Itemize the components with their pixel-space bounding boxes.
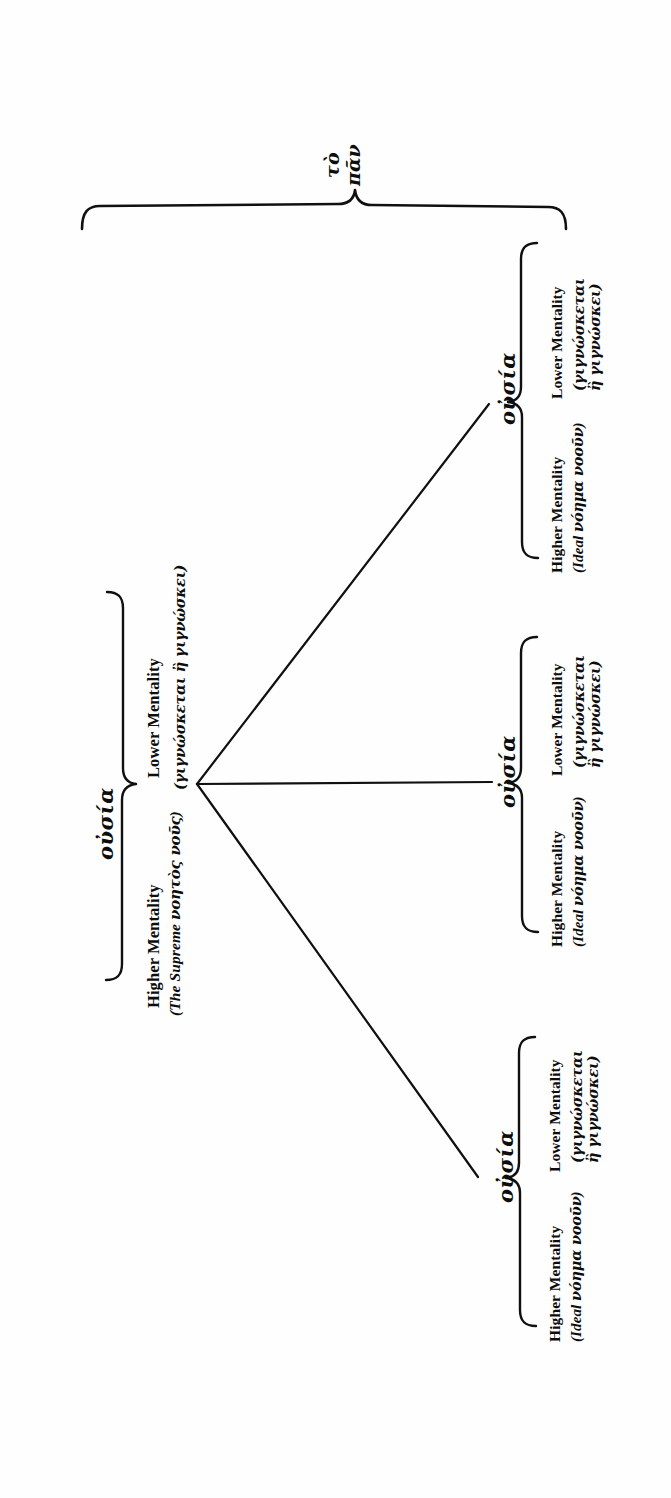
upper-branch-higher-mentality-label: Higher Mentality — [549, 457, 566, 573]
lower-branch-lower-gloss-line2: ἢ γιγνώσκει) — [585, 1050, 601, 1163]
lower-branch-lower-mentality-label: Lower Mentality — [547, 1059, 564, 1172]
root-label-line2: πᾶν — [343, 144, 364, 186]
middle-branch-ousia-label: οὐσία — [497, 735, 520, 808]
upper-branch-lower-mentality-gloss: (γιγνώσκεται ἢ γιγνώσκει) — [571, 278, 602, 391]
root-label: τὸ πᾶν — [322, 144, 365, 186]
middle-branch-lower-gloss-line2: ἢ γιγνώσκει) — [587, 655, 603, 768]
trunk-higher-mentality-label: Higher Mentality — [145, 884, 163, 1008]
upper-branch-lower-gloss-line1: (γιγνώσκεται — [571, 278, 587, 391]
branch-lines — [197, 404, 492, 1177]
root-brace — [82, 190, 566, 229]
branch-line-upper — [197, 404, 489, 784]
middle-branch-lower-mentality-gloss: (γιγνώσκεται ἢ γιγνώσκει) — [571, 655, 602, 768]
upper-branch-ousia-label: οὐσία — [497, 352, 520, 425]
trunk-ousia-label: οὐσία — [95, 787, 118, 860]
trunk-higher-mentality-gloss: (The Supreme νοητὸς νοῦς) — [167, 811, 184, 1016]
root-label-line1: τὸ — [322, 144, 343, 186]
upper-branch-lower-gloss-line2: ἢ γιγνώσκει) — [587, 278, 603, 391]
lower-branch-higher-mentality-label: Higher Mentality — [547, 1226, 564, 1342]
middle-branch-lower-mentality-label: Lower Mentality — [549, 663, 566, 776]
middle-branch-higher-mentality-gloss: (Ideal νόημα νοοῦν) — [570, 796, 586, 947]
middle-branch-lower-gloss-line1: (γιγνώσκεται — [571, 655, 587, 768]
lower-branch-lower-gloss-line1: (γιγνώσκεται — [569, 1050, 585, 1163]
trunk-higher-gloss-greek: νοητὸς νοῦς — [166, 816, 184, 920]
trunk-lower-mentality-label: Lower Mentality — [145, 658, 163, 778]
trunk-lower-mentality-gloss: (γιγνώσκεται ἢ γιγνώσκει) — [172, 565, 188, 790]
trunk-brace — [106, 592, 136, 980]
lower-branch-lower-mentality-gloss: (γιγνώσκεται ἢ γιγνώσκει) — [569, 1050, 600, 1163]
branch-line-lower — [197, 784, 478, 1177]
upper-branch-higher-mentality-gloss: (Ideal νόημα νοοῦν) — [570, 422, 586, 573]
upper-branch-lower-mentality-label: Lower Mentality — [549, 286, 566, 399]
figure-canvas: τὸ πᾶν οὐσία Higher Mentality (The Supre… — [0, 0, 671, 1498]
middle-branch-higher-mentality-label: Higher Mentality — [549, 831, 566, 947]
branch-line-middle — [197, 782, 492, 784]
lower-branch-ousia-label: οὐσία — [495, 1130, 518, 1203]
lower-branch-higher-mentality-gloss: (Ideal νόημα νοοῦν) — [568, 1191, 584, 1342]
